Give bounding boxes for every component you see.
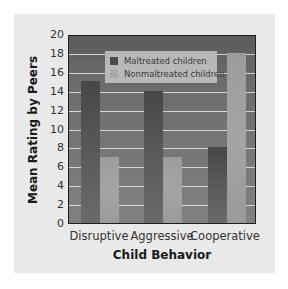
x-tick-label: Disruptive [64, 229, 134, 243]
legend-label: Nonmaltreated children [124, 69, 225, 79]
legend-item-maltreated: Maltreated children [110, 55, 207, 67]
x-tick-label: Aggressive [127, 229, 197, 243]
bar-cooperative-nonmaltreated [227, 53, 246, 223]
y-tick-label: 10 [46, 124, 64, 136]
y-tick-label: 14 [46, 86, 64, 98]
plot-area: Maltreated children Nonmaltreated childr… [68, 35, 256, 224]
y-tick-label: 20 [46, 29, 64, 41]
y-tick-label: 12 [46, 105, 64, 117]
legend-swatch-nonmaltreated [110, 70, 118, 78]
y-tick-label: 6 [46, 161, 64, 173]
y-tick-label: 18 [46, 48, 64, 60]
x-tick-label: Cooperative [190, 229, 260, 243]
legend-swatch-maltreated [110, 57, 118, 65]
legend-item-nonmaltreated: Nonmaltreated children [110, 68, 225, 80]
bar-cooperative-maltreated [208, 147, 227, 223]
legend: Maltreated children Nonmaltreated childr… [105, 51, 217, 83]
y-tick-label: 0 [46, 218, 64, 230]
y-tick-label: 16 [46, 67, 64, 79]
y-tick-label: 8 [46, 142, 64, 154]
bar-disruptive-maltreated [81, 81, 100, 223]
bar-disruptive-nonmaltreated [100, 157, 119, 223]
y-tick-label: 4 [46, 180, 64, 192]
y-axis-label: Mean Rating by Peers [26, 56, 40, 204]
legend-label: Maltreated children [124, 56, 207, 66]
y-tick-label: 2 [46, 199, 64, 211]
bar-aggressive-nonmaltreated [163, 157, 182, 223]
bar-aggressive-maltreated [144, 91, 163, 223]
x-axis-label: Child Behavior [68, 248, 256, 262]
